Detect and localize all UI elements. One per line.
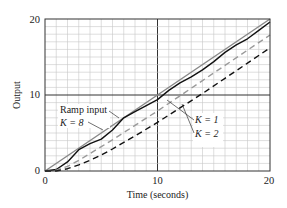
- x-tick-20: 20: [264, 175, 275, 186]
- y-tick-0: 0: [35, 165, 40, 176]
- y-tick-20: 20: [30, 14, 41, 25]
- annotation-k1: K = 1: [194, 114, 218, 125]
- y-axis-label: Output: [11, 81, 22, 109]
- leader-ramp: [109, 111, 119, 118]
- x-axis-label: Time (seconds): [127, 189, 189, 201]
- annotation-k8: K = 8: [59, 117, 83, 128]
- x-tick-10: 10: [152, 175, 163, 186]
- annotation-k2: K = 2: [194, 128, 218, 139]
- y-tick-10: 10: [30, 89, 41, 100]
- chart: 0 10 20 0 10 20 Time (seconds) Output Ra…: [0, 0, 287, 208]
- x-tick-0: 0: [42, 175, 47, 186]
- annotation-ramp: Ramp input: [60, 104, 107, 115]
